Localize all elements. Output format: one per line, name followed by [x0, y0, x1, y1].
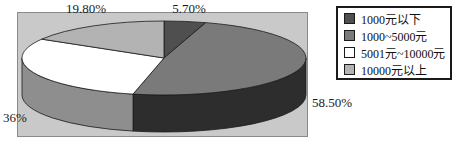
legend-swatch-light: [344, 64, 355, 75]
slice-label-below-1000: 5.70%: [172, 2, 206, 15]
legend-item: 1000~5000元: [338, 27, 450, 44]
slice-label-5001-10000: 36%: [3, 111, 27, 124]
legend-label: 5001元~10000元: [361, 44, 446, 62]
legend-swatch-gray: [344, 30, 355, 41]
legend-item: 10000元以上: [338, 61, 450, 78]
slice-label-above-10000: 19.80%: [66, 2, 106, 15]
legend-label: 1000~5000元: [361, 27, 428, 45]
legend-label: 10000元以上: [361, 61, 427, 79]
legend-label: 1000元以下: [361, 10, 421, 28]
chart-canvas: 5.70% 58.50% 36% 19.80% 1000元以下 1000~500…: [0, 0, 458, 146]
chart-legend: 1000元以下 1000~5000元 5001元~10000元 10000元以上: [336, 6, 452, 80]
pie-slices: [22, 21, 306, 132]
legend-item: 1000元以下: [338, 10, 450, 27]
legend-swatch-dark: [344, 13, 355, 24]
legend-item: 5001元~10000元: [338, 44, 450, 61]
slice-label-1000-5000: 58.50%: [312, 96, 352, 109]
legend-swatch-white: [344, 47, 355, 58]
